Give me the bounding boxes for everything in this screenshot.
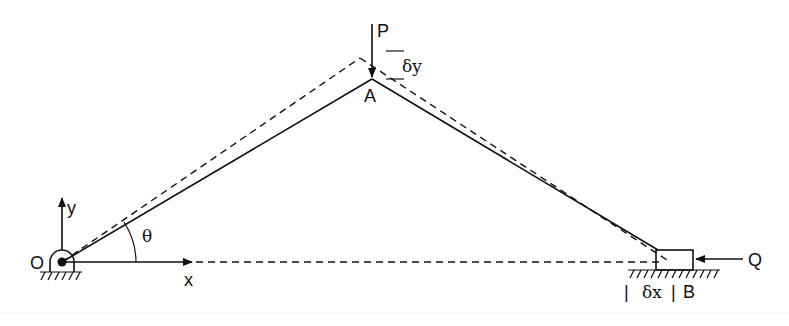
label-delta-y: δy <box>402 56 422 76</box>
label-bar-right: | <box>671 282 676 302</box>
label-delta-x: δx <box>642 282 662 302</box>
label-origin: O <box>30 253 44 273</box>
ground-support-o <box>40 272 82 280</box>
angle-arc <box>124 222 136 262</box>
label-joint-a: A <box>364 86 376 106</box>
ground-support-b <box>628 270 720 278</box>
label-load-q: Q <box>748 250 762 270</box>
label-load-p: P <box>377 21 389 41</box>
bar-ab <box>372 79 658 250</box>
bar-oa <box>62 79 372 262</box>
label-angle: θ <box>142 226 152 246</box>
slider-block-b <box>656 250 693 270</box>
bar-ab-displaced <box>360 58 670 262</box>
label-x-axis: x <box>184 270 193 290</box>
bar-oa-displaced <box>62 58 360 262</box>
label-slider-b: B <box>683 282 695 302</box>
label-y-axis: y <box>67 198 76 218</box>
linkage-diagram: O y x θ A P δy Q | δx | B <box>0 0 789 326</box>
label-bar-left: | <box>624 282 629 302</box>
